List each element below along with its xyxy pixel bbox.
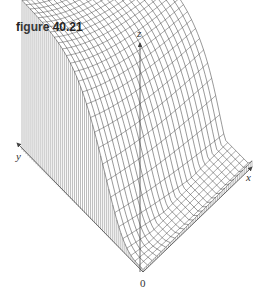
y-axis-label: y [15, 150, 21, 162]
wireframe-surface [22, 0, 252, 272]
x-axis-label: x [245, 171, 251, 183]
surface-plot: z y x 0 [0, 0, 265, 300]
z-axis-label: z [136, 27, 142, 39]
origin-label: 0 [140, 277, 146, 289]
